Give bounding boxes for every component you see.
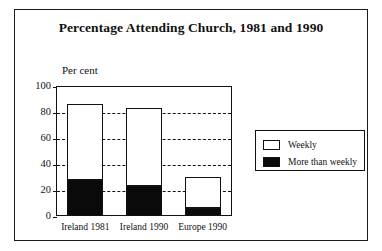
y-tick-label: 100 — [35, 81, 51, 92]
y-axis-tick-labels: 020406080100 — [22, 86, 51, 216]
bar-3 — [185, 177, 221, 216]
legend-item: More than weekly — [263, 155, 357, 169]
white-swatch — [263, 140, 280, 150]
legend-item: Weekly — [263, 138, 317, 152]
y-tick-label: 80 — [41, 107, 52, 118]
page-title: Percentage Attending Church, 1981 and 19… — [14, 20, 368, 36]
y-axis-caption: Per cent — [62, 64, 98, 76]
category-label: Ireland 1990 — [120, 222, 168, 232]
bar-segment-weekly — [126, 108, 162, 186]
bar-segment-more-than-weekly — [126, 186, 162, 216]
legend-label: More than weekly — [288, 157, 357, 167]
chart-legend: WeeklyMore than weekly — [255, 130, 365, 171]
y-tick-label: 0 — [46, 211, 51, 222]
bar-1 — [67, 104, 103, 216]
category-label: Europe 1990 — [178, 222, 227, 232]
y-tick-label: 20 — [41, 185, 52, 196]
bar-segment-weekly — [67, 104, 103, 179]
legend-label: Weekly — [288, 140, 317, 150]
black-swatch — [263, 157, 280, 167]
bar-segment-weekly — [185, 177, 221, 208]
category-label: Ireland 1981 — [61, 222, 109, 232]
bar-segment-more-than-weekly — [67, 180, 103, 216]
bar-segment-more-than-weekly — [185, 208, 221, 216]
y-tick-mark — [53, 217, 57, 218]
y-tick-label: 60 — [41, 133, 52, 144]
chart-figure: Percentage Attending Church, 1981 and 19… — [0, 0, 382, 251]
bar-2 — [126, 108, 162, 216]
y-tick-label: 40 — [41, 159, 52, 170]
y-tick-mark — [53, 87, 57, 88]
